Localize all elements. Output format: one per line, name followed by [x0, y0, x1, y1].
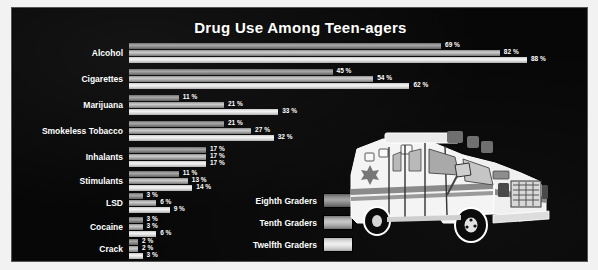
bar-g10: 13 % — [129, 178, 188, 184]
bar-value-label: 33 % — [282, 107, 297, 114]
bar-fill — [129, 43, 441, 49]
bar-value-label: 17 % — [210, 159, 225, 166]
bar-g10: 3 % — [129, 224, 143, 230]
bar-value-label: 11 % — [183, 169, 197, 176]
bar-fill — [129, 154, 206, 160]
bar-value-label: 11 % — [183, 93, 197, 100]
bar-group: Marijuana11 %21 %33 % — [13, 95, 587, 117]
category-label: LSD — [13, 198, 123, 208]
ambulance-illustration — [343, 119, 587, 259]
bar-fill — [129, 185, 192, 191]
bar-g10: 82 % — [129, 50, 500, 56]
bar-fill — [129, 193, 143, 199]
bar-value-label: 17 % — [210, 145, 225, 152]
legend-label: Tenth Graders — [260, 218, 317, 228]
bar-fill — [129, 178, 188, 184]
bar-fill — [129, 246, 138, 252]
bar-group: Alcohol69 %82 %88 % — [13, 43, 587, 65]
bar-g10: 6 % — [129, 200, 156, 206]
bar-fill — [129, 121, 224, 127]
bar-value-label: 2 % — [142, 237, 153, 244]
category-label: Smokeless Tobacco — [13, 126, 123, 136]
bar-fill — [129, 109, 278, 115]
bar-fill — [129, 57, 527, 63]
bar-fill — [129, 69, 333, 75]
bar-g12: 88 % — [129, 57, 527, 63]
bar-value-label: 54 % — [377, 74, 392, 81]
bar-value-label: 3 % — [147, 222, 158, 229]
bar-g12: 33 % — [129, 109, 278, 115]
bar-value-label: 14 % — [196, 183, 211, 190]
bar-fill — [129, 239, 138, 245]
bar-fill — [129, 207, 170, 213]
bar-fill — [129, 171, 179, 177]
bar-g8: 3 % — [129, 217, 143, 223]
bar-g8: 21 % — [129, 121, 224, 127]
page-title: Drug Use Among Teen-agers — [13, 19, 587, 36]
bar-g12: 9 % — [129, 207, 170, 213]
bar-g12: 14 % — [129, 185, 192, 191]
chart-legend: Eighth GradersTenth GradersTwelfth Grade… — [223, 192, 353, 258]
bar-value-label: 21 % — [228, 100, 243, 107]
bar-fill — [129, 50, 500, 56]
bar-fill — [129, 76, 373, 82]
category-label: Crack — [13, 244, 123, 254]
bar-fill — [129, 253, 143, 259]
bar-fill — [129, 224, 143, 230]
bar-g10: 17 % — [129, 154, 206, 160]
bar-fill — [129, 161, 206, 167]
bar-fill — [129, 135, 274, 141]
bar-value-label: 3 % — [147, 251, 158, 258]
bar-g8: 11 % — [129, 95, 179, 101]
legend-label: Twelfth Graders — [253, 240, 317, 250]
bar-value-label: 13 % — [192, 176, 207, 183]
bar-g8: 2 % — [129, 239, 138, 245]
category-label: Cigarettes — [13, 74, 123, 84]
bar-fill — [129, 147, 206, 153]
bar-fill — [129, 217, 143, 223]
bar-g8: 45 % — [129, 69, 333, 75]
bar-value-label: 45 % — [337, 67, 352, 74]
bar-value-label: 3 % — [147, 191, 158, 198]
bar-value-label: 6 % — [160, 198, 171, 205]
bar-g10: 21 % — [129, 102, 224, 108]
bar-group: Cigarettes45 %54 %62 % — [13, 69, 587, 91]
bar-g8: 11 % — [129, 171, 179, 177]
bar-fill — [129, 83, 409, 89]
bar-g12: 62 % — [129, 83, 409, 89]
category-label: Alcohol — [13, 48, 123, 58]
legend-item-g10[interactable]: Tenth Graders — [223, 214, 353, 236]
bar-g8: 3 % — [129, 193, 143, 199]
chart-panel: Drug Use Among Teen-agers Alcohol69 %82 … — [12, 8, 587, 261]
bar-g12: 3 % — [129, 253, 143, 259]
bar-value-label: 9 % — [174, 205, 185, 212]
bar-g12: 17 % — [129, 161, 206, 167]
category-label: Cocaine — [13, 222, 123, 232]
category-label: Inhalants — [13, 152, 123, 162]
bar-value-label: 88 % — [531, 55, 546, 62]
bar-value-label: 17 % — [210, 152, 225, 159]
bar-g8: 17 % — [129, 147, 206, 153]
legend-item-g8[interactable]: Eighth Graders — [223, 192, 353, 214]
bar-g12: 32 % — [129, 135, 274, 141]
bar-g10: 54 % — [129, 76, 373, 82]
bar-fill — [129, 102, 224, 108]
bar-value-label: 27 % — [255, 126, 270, 133]
bar-value-label: 82 % — [504, 48, 519, 55]
bar-fill — [129, 95, 179, 101]
category-label: Marijuana — [13, 100, 123, 110]
bar-fill — [129, 200, 156, 206]
bar-fill — [129, 128, 251, 134]
bar-value-label: 6 % — [160, 229, 171, 236]
chart-page: Drug Use Among Teen-agers Alcohol69 %82 … — [0, 0, 598, 270]
legend-label: Eighth Graders — [256, 196, 317, 206]
bar-g8: 69 % — [129, 43, 441, 49]
bar-value-label: 32 % — [278, 133, 293, 140]
bar-value-label: 69 % — [445, 41, 460, 48]
bar-value-label: 3 % — [147, 215, 158, 222]
legend-item-g12[interactable]: Twelfth Graders — [223, 236, 353, 258]
bar-value-label: 21 % — [228, 119, 243, 126]
category-label: Stimulants — [13, 176, 123, 186]
bar-g10: 2 % — [129, 246, 138, 252]
bar-value-label: 2 % — [142, 244, 153, 251]
